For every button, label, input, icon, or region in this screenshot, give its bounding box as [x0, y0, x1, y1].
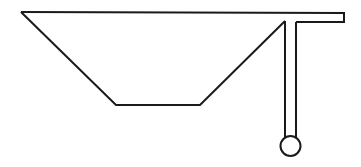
diagram-canvas [0, 0, 361, 167]
basin-outline [21, 12, 285, 105]
basin-diagram [0, 0, 361, 167]
knob-circle [281, 136, 301, 156]
top-bar [21, 12, 344, 22]
